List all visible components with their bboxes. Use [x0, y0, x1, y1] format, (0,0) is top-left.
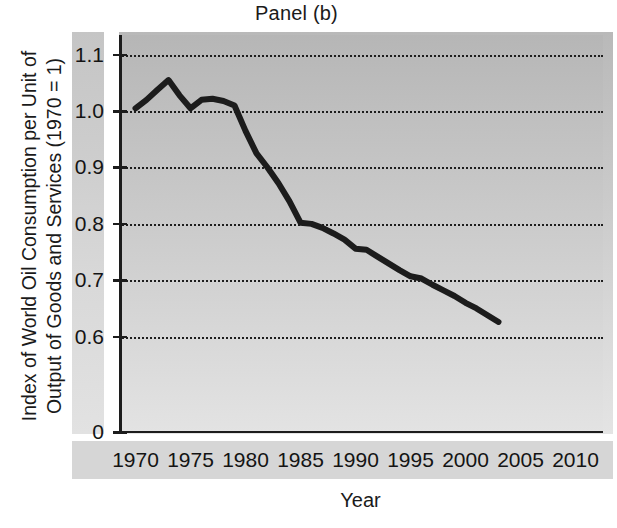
- y-axis-tick-label: 0.6: [75, 325, 104, 349]
- x-axis-tick-label-strip: 197019751980198519901995200020052010: [72, 441, 613, 479]
- x-axis-line: [119, 431, 603, 434]
- x-axis-title-text: Year: [340, 489, 380, 512]
- x-axis-tick-label: 1985: [277, 448, 324, 472]
- x-axis-tick-label: 1995: [387, 448, 434, 472]
- y-axis-title-line1: Index of World Oil Consumption per Unit …: [18, 51, 40, 421]
- x-axis-tick-label: 1975: [167, 448, 214, 472]
- x-axis-tick-label: 2010: [552, 448, 599, 472]
- figure: Panel (b) Index of World Oil Consumption…: [0, 0, 617, 528]
- x-axis-tick-label: 1970: [112, 448, 159, 472]
- x-axis-tick-label: 2005: [497, 448, 544, 472]
- y-axis-title: Index of World Oil Consumption per Unit …: [14, 26, 70, 446]
- y-axis-tick-label: 1.0: [75, 99, 104, 123]
- chart-title: Panel (b): [0, 2, 617, 25]
- y-axis-tick-label: 0.8: [75, 212, 104, 236]
- x-axis-tick-label: 1980: [222, 448, 269, 472]
- y-axis-title-line2: Output of Goods and Services (1970 = 1): [42, 51, 67, 421]
- y-axis-line: [119, 35, 122, 433]
- y-axis-tick-label: 0.9: [75, 155, 104, 179]
- data-series-line: [119, 35, 603, 433]
- y-axis-gutter: [104, 32, 119, 434]
- oil-intensity-line: [136, 80, 499, 322]
- x-axis-tick-label: 2000: [442, 448, 489, 472]
- x-axis-tick-label: 1990: [332, 448, 379, 472]
- chart-title-text: Panel (b): [255, 2, 338, 25]
- x-axis-title: Year: [0, 489, 617, 512]
- y-axis-tick-label: 1.1: [75, 43, 104, 67]
- y-axis-tick-label: 0.7: [75, 268, 104, 292]
- plot-area: [119, 35, 603, 433]
